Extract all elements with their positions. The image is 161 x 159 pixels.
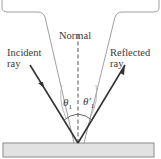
reflected-label-line2: ray (110, 58, 123, 69)
theta-reflected-label: θ′1 (83, 95, 94, 110)
reflected-label-line1: Reflected (110, 47, 150, 58)
incident-label-line2: ray (7, 58, 20, 69)
normal-label: Normal (59, 30, 91, 41)
diagram-graphics (0, 0, 161, 159)
theta-incident-label: θ1 (63, 96, 72, 111)
reflecting-surface (3, 143, 154, 157)
reflection-diagram: Normal Incident ray Reflected ray θ1 θ′1 (0, 0, 161, 159)
incident-arrowhead-icon (38, 82, 44, 88)
incident-label-line1: Incident (7, 47, 41, 58)
callout-outline (2, 0, 159, 143)
incident-angle-arc (64, 114, 78, 120)
